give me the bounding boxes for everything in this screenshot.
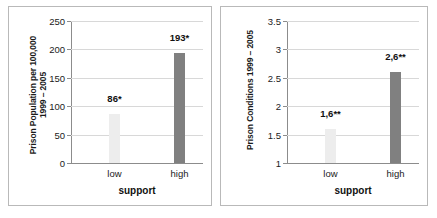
tick-mark-left-50 [67,135,71,136]
y-tick-label-right-1: 1 [276,158,281,169]
y-tick-label-left-150: 150 [49,72,65,83]
x-axis-line-left [71,163,203,164]
plot-area-right: 3.5 3 2.5 2 1.5 1 1,6** 2,6** low high [287,21,419,164]
y-tick-label-left-200: 200 [49,44,65,55]
y-axis-line-right [287,21,288,164]
tick-mark-left-200 [67,49,71,50]
bar-left-high [174,53,185,163]
plot-area-left: 250 200 150 100 50 0 86* 193* low high [71,21,203,164]
chart-panel-prison-conditions: Prison Conditions 1999 – 2005 3.5 3 [220,6,428,206]
bar-right-high [390,72,401,163]
y-axis-title-left-line2: 1999 – 2005 [38,20,48,170]
x-axis-title-left: support [71,185,203,196]
y-axis-title-left-line1: Prison Population per 100,000 [28,20,38,170]
y-axis-title-right-line1: Prison Conditions 1999 – 2005 [245,15,255,165]
gridline-right-3-5 [287,21,419,22]
tick-mark-right-3 [283,49,287,50]
tick-mark-right-1 [283,163,287,164]
bar-value-right-high: 2,6** [385,51,406,62]
x-axis-line-right [287,163,419,164]
tick-mark-right-2-5 [283,78,287,79]
tick-mark-right-3-5 [283,21,287,22]
gridline-left-250 [71,21,203,22]
x-tick-label-left-high: high [171,168,189,179]
tick-mark-left-0 [67,163,71,164]
x-tick-label-left-low: low [107,168,121,179]
bar-value-left-high: 193* [170,32,190,43]
panel-inner-left: Prison Population per 100,000 1999 – 200… [9,7,211,205]
y-tick-label-left-100: 100 [49,101,65,112]
panel-inner-right: Prison Conditions 1999 – 2005 3.5 3 [221,7,427,205]
figure-two-bar-charts: Prison Population per 100,000 1999 – 200… [0,0,437,218]
x-axis-title-right: support [287,185,419,196]
tick-mark-right-2 [283,106,287,107]
bar-value-left-low: 86* [107,93,121,104]
y-tick-label-right-2-5: 2.5 [268,72,281,83]
y-axis-title-left: Prison Population per 100,000 1999 – 200… [28,20,48,170]
bar-left-low [109,114,120,163]
tick-mark-right-1-5 [283,135,287,136]
tick-mark-left-100 [67,106,71,107]
y-axis-title-right: Prison Conditions 1999 – 2005 [245,15,255,165]
y-tick-label-right-2: 2 [276,101,281,112]
x-tick-label-right-low: low [323,168,337,179]
y-tick-label-right-1-5: 1.5 [268,129,281,140]
gridline-left-200 [71,49,203,50]
y-tick-label-left-50: 50 [54,129,65,140]
bar-value-right-low: 1,6** [320,108,341,119]
y-tick-label-right-3-5: 3.5 [268,16,281,27]
y-tick-label-left-0: 0 [60,158,65,169]
x-tick-label-right-high: high [387,168,405,179]
tick-mark-left-250 [67,21,71,22]
tick-mark-left-150 [67,78,71,79]
y-axis-line-left [71,21,72,164]
y-tick-label-right-3: 3 [276,44,281,55]
chart-panel-prison-population: Prison Population per 100,000 1999 – 200… [8,6,212,206]
bar-right-low [325,129,336,163]
y-tick-label-left-250: 250 [49,16,65,27]
